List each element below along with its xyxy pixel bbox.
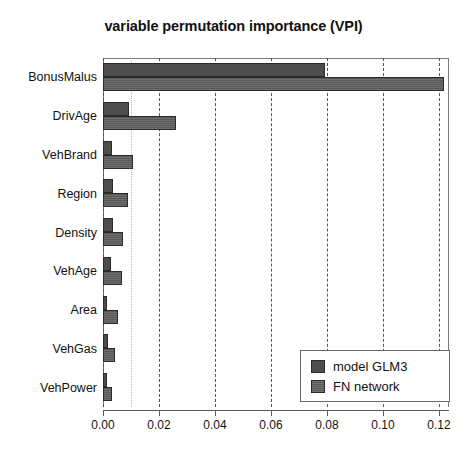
vpi-bar-chart: variable permutation importance (VPI) Bo… — [0, 0, 467, 470]
bar-vehage-fn — [103, 271, 122, 285]
x-tick-label: 0.12 — [417, 418, 461, 432]
y-axis-label-density: Density — [0, 225, 97, 241]
bar-group-vehbrand — [103, 136, 449, 175]
x-tick — [439, 410, 440, 416]
bar-group-area — [103, 291, 449, 330]
bar-area-fn — [103, 310, 118, 324]
bar-vehage-glm3 — [103, 257, 111, 271]
x-tick — [103, 410, 104, 416]
x-tick-label: 0.00 — [81, 418, 125, 432]
x-axis-line — [103, 410, 449, 411]
legend-swatch-glm3 — [311, 360, 325, 373]
bar-bonusmalus-fn — [103, 77, 444, 91]
x-tick-label: 0.04 — [193, 418, 237, 432]
y-axis-label-vehage: VehAge — [0, 263, 97, 279]
y-axis-label-drivage: DrivAge — [0, 108, 97, 124]
legend-label: model GLM3 — [333, 357, 407, 377]
bar-density-glm3 — [103, 218, 113, 232]
x-tick — [215, 410, 216, 416]
x-tick-label: 0.06 — [249, 418, 293, 432]
legend-swatch-fn — [311, 380, 325, 393]
bar-region-fn — [103, 193, 128, 207]
bar-vehbrand-fn — [103, 155, 133, 169]
x-tick — [327, 410, 328, 416]
bar-group-density — [103, 213, 449, 252]
x-tick-label: 0.10 — [361, 418, 405, 432]
bar-group-region — [103, 174, 449, 213]
x-tick-label: 0.08 — [305, 418, 349, 432]
y-axis-label-bonusmalus: BonusMalus — [0, 69, 97, 85]
legend-item-glm3: model GLM3 — [311, 356, 407, 376]
bar-group-bonusmalus — [103, 58, 449, 97]
x-tick — [271, 410, 272, 416]
y-axis-label-vehpower: VehPower — [0, 380, 97, 396]
x-tick — [159, 410, 160, 416]
bar-drivage-fn — [103, 116, 176, 130]
y-axis-label-vehbrand: VehBrand — [0, 147, 97, 163]
bar-vehbrand-glm3 — [103, 141, 112, 155]
legend-label: FN network — [333, 377, 399, 397]
bar-vehpower-glm3 — [103, 373, 107, 387]
legend-item-fn: FN network — [311, 376, 399, 396]
chart-legend: model GLM3FN network — [300, 350, 450, 402]
x-tick — [383, 410, 384, 416]
y-axis-label-vehgas: VehGas — [0, 341, 97, 357]
bar-bonusmalus-glm3 — [103, 63, 325, 77]
x-tick-label: 0.02 — [137, 418, 181, 432]
bar-vehgas-fn — [103, 348, 115, 362]
bar-vehpower-fn — [103, 387, 112, 401]
bar-drivage-glm3 — [103, 102, 129, 116]
y-axis-labels: BonusMalusDrivAgeVehBrandRegionDensityVe… — [0, 58, 97, 407]
bar-group-drivage — [103, 97, 449, 136]
chart-title: variable permutation importance (VPI) — [0, 18, 467, 34]
bar-area-glm3 — [103, 296, 107, 310]
y-axis-label-area: Area — [0, 302, 97, 318]
bar-region-glm3 — [103, 179, 113, 193]
bar-vehgas-glm3 — [103, 334, 108, 348]
bar-density-fn — [103, 232, 123, 246]
y-axis-label-region: Region — [0, 186, 97, 202]
bar-group-vehage — [103, 252, 449, 291]
